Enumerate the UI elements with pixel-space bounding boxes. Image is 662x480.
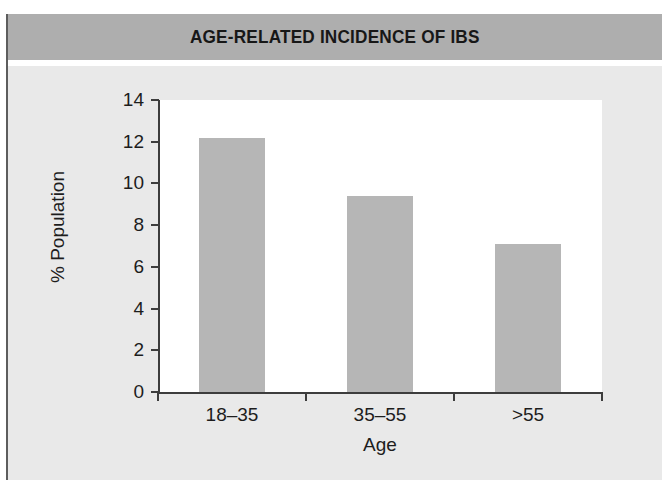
- y-axis-title: % Population: [47, 117, 69, 337]
- y-axis-tick-label: 6: [84, 257, 144, 276]
- y-axis-tick: [151, 182, 159, 184]
- chart-title-bar: AGE-RELATED INCIDENCE OF IBS: [8, 14, 662, 60]
- chart-panel: 02468101214 18–3535–55>55 Age % Populati…: [8, 66, 662, 480]
- x-axis-title: Age: [158, 434, 602, 456]
- y-axis-tick: [151, 99, 159, 101]
- y-axis-tick: [151, 349, 159, 351]
- y-axis-tick: [151, 308, 159, 310]
- bar: [347, 196, 413, 392]
- x-axis-line: [158, 392, 602, 394]
- y-axis-tick-label: 12: [84, 132, 144, 151]
- x-axis-tick: [157, 392, 159, 401]
- y-axis-tick-label: 0: [84, 382, 144, 401]
- chart-figure: AGE-RELATED INCIDENCE OF IBS 02468101214…: [0, 0, 662, 480]
- y-axis-tick-label: 2: [84, 340, 144, 359]
- x-axis-tick-label: 18–35: [172, 404, 292, 426]
- bar: [199, 138, 265, 392]
- y-axis-tick-label: 14: [84, 90, 144, 109]
- x-axis-tick-label: 35–55: [320, 404, 440, 426]
- chart-title: AGE-RELATED INCIDENCE OF IBS: [190, 26, 480, 48]
- x-axis-tick-label: >55: [468, 404, 588, 426]
- y-axis-tick-label: 10: [84, 173, 144, 192]
- y-axis-tick: [151, 141, 159, 143]
- x-axis-tick: [601, 392, 603, 401]
- y-axis-tick: [151, 266, 159, 268]
- x-axis-tick: [453, 392, 455, 401]
- y-axis-tick: [151, 224, 159, 226]
- x-axis-tick: [305, 392, 307, 401]
- y-axis-tick-label: 8: [84, 215, 144, 234]
- y-axis-tick-label: 4: [84, 299, 144, 318]
- bar: [495, 244, 561, 392]
